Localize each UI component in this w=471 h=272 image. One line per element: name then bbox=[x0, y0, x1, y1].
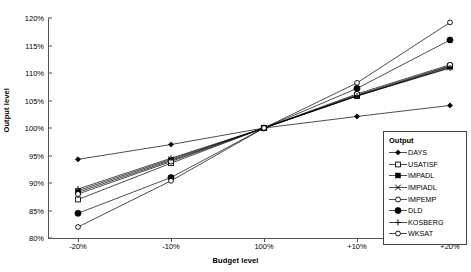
legend-marker-icon bbox=[388, 194, 408, 205]
data-point-open-circle-small bbox=[448, 20, 453, 25]
legend-marker-icon bbox=[388, 159, 408, 170]
legend-item-kosberg[interactable]: KOSBERG bbox=[388, 217, 463, 229]
data-point-open-circle-small bbox=[262, 126, 267, 131]
data-point-filled-diamond bbox=[447, 103, 452, 108]
legend-marker-icon bbox=[388, 182, 408, 193]
data-point-open-circle-small bbox=[169, 178, 174, 183]
data-point-filled-diamond bbox=[168, 142, 173, 147]
legend-marker-icon bbox=[388, 228, 408, 239]
legend-item-label: DLD bbox=[408, 207, 422, 214]
legend-item-label: IMPIADL bbox=[408, 184, 437, 191]
legend-item-label: DAYS bbox=[408, 149, 427, 156]
data-point-large-filled-circle bbox=[354, 85, 360, 91]
legend-item-usatisf[interactable]: USATISF bbox=[388, 159, 463, 171]
line-chart: Output level Budget level 80%85%90%95%10… bbox=[0, 0, 471, 272]
data-point-open-circle bbox=[76, 192, 81, 197]
data-point-open-circle-small bbox=[76, 225, 81, 230]
legend-item-wksat[interactable]: WKSAT bbox=[388, 228, 463, 240]
legend-item-label: IMPADL bbox=[408, 172, 434, 179]
legend-item-impiadl[interactable]: IMPIADL bbox=[388, 182, 463, 194]
data-point-large-filled-circle bbox=[447, 37, 453, 43]
data-point-filled-diamond bbox=[75, 157, 80, 162]
data-point-open-square bbox=[396, 162, 401, 167]
data-point-open-square bbox=[76, 197, 81, 202]
legend-item-impadl[interactable]: IMPADL bbox=[388, 170, 463, 182]
legend-item-label: IMPEMP bbox=[408, 196, 436, 203]
legend-item-days[interactable]: DAYS bbox=[388, 147, 463, 159]
legend-marker-icon bbox=[388, 205, 408, 216]
data-point-large-filled-circle bbox=[75, 210, 81, 216]
legend-item-dld[interactable]: DLD bbox=[388, 205, 463, 217]
legend-item-impemp[interactable]: IMPEMP bbox=[388, 193, 463, 205]
legend-marker-icon bbox=[388, 147, 408, 158]
legend-item-label: WKSAT bbox=[408, 230, 433, 237]
legend: Output DAYSUSATISFIMPADLIMPIADLIMPEMPDLD… bbox=[383, 131, 467, 245]
data-point-open-circle bbox=[396, 197, 401, 202]
data-point-open-circle-small bbox=[396, 232, 401, 237]
data-point-filled-diamond bbox=[395, 150, 400, 155]
data-point-large-filled-circle bbox=[395, 208, 401, 214]
legend-marker-icon bbox=[388, 170, 408, 181]
data-point-open-circle-small bbox=[355, 81, 360, 86]
legend-marker-icon bbox=[388, 217, 408, 228]
legend-item-label: USATISF bbox=[408, 161, 438, 168]
legend-title: Output bbox=[389, 136, 463, 145]
data-point-filled-diamond bbox=[354, 114, 359, 119]
data-point-plus bbox=[395, 219, 401, 225]
data-point-filled-square bbox=[396, 174, 401, 179]
legend-item-label: KOSBERG bbox=[408, 219, 444, 226]
